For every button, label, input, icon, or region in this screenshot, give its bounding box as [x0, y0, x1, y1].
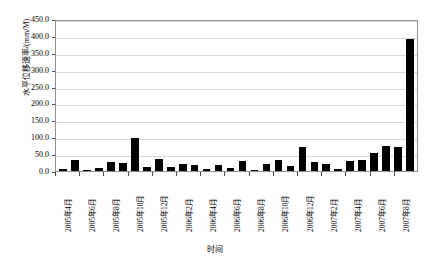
bar-slot	[296, 21, 308, 171]
bar-slot	[81, 21, 93, 171]
y-tick-label: 150.0	[31, 117, 49, 125]
bar[interactable]	[227, 168, 235, 171]
bar[interactable]	[334, 169, 342, 171]
bar[interactable]	[107, 162, 115, 171]
bar[interactable]	[95, 168, 103, 171]
x-tick-label: 2006年2月	[186, 199, 194, 232]
bar-slot	[332, 21, 344, 171]
bar-slot	[260, 21, 272, 171]
x-tick-label: 2006年6月	[234, 199, 242, 232]
bar-slot	[57, 21, 69, 171]
x-tick-label: 2006年12月	[307, 196, 315, 233]
bar[interactable]	[406, 39, 414, 171]
bar-slot	[201, 21, 213, 171]
bar-slot	[69, 21, 81, 171]
bar[interactable]	[299, 147, 307, 171]
bar[interactable]	[239, 161, 247, 171]
bar-slot	[93, 21, 105, 171]
bar-slot	[105, 21, 117, 171]
bar[interactable]	[215, 165, 223, 171]
y-tick-label: 400.0	[31, 33, 49, 41]
x-tick-label: 2005年6月	[89, 199, 97, 232]
bar-chart: 水平位移速率/(mm/M) 0.050.0100.0150.0200.0250.…	[0, 0, 430, 263]
bar[interactable]	[59, 169, 67, 171]
y-tick-label: 0.0	[39, 168, 49, 176]
x-tick-label: 2005年12月	[161, 196, 169, 233]
y-tick-label: 450.0	[31, 16, 49, 24]
bar-slot	[320, 21, 332, 171]
bar[interactable]	[394, 147, 402, 171]
bar[interactable]	[322, 164, 330, 171]
bar-slot	[308, 21, 320, 171]
x-axis-tick-labels: 2005年4月2005年6月2005年8月2005年10月2005年12月200…	[55, 176, 418, 236]
y-tick-label: 250.0	[31, 84, 49, 92]
bar[interactable]	[263, 164, 271, 171]
y-tick-label: 350.0	[31, 50, 49, 58]
bar[interactable]	[251, 170, 259, 171]
bar-slot	[177, 21, 189, 171]
bar-slot	[380, 21, 392, 171]
x-tick-label: 2005年4月	[65, 199, 73, 232]
bar[interactable]	[370, 153, 378, 171]
bar-slot	[249, 21, 261, 171]
x-axis-title: 时间	[0, 243, 430, 254]
bar[interactable]	[346, 161, 354, 171]
bar-slot	[117, 21, 129, 171]
x-tick-label: 2007年6月	[379, 199, 387, 232]
y-tick-label: 100.0	[31, 134, 49, 142]
bar-slot	[356, 21, 368, 171]
bar-slot	[284, 21, 296, 171]
bar[interactable]	[287, 166, 295, 171]
bar[interactable]	[179, 164, 187, 171]
y-tick-label: 300.0	[31, 67, 49, 75]
bar[interactable]	[203, 169, 211, 171]
bar[interactable]	[167, 167, 175, 171]
bar-slot	[213, 21, 225, 171]
bar-slot	[141, 21, 153, 171]
bar[interactable]	[191, 165, 199, 171]
x-tick-label: 2005年10月	[137, 196, 145, 233]
bar[interactable]	[311, 162, 319, 171]
x-tick-label: 2007年2月	[331, 199, 339, 232]
bar[interactable]	[131, 138, 139, 171]
x-tick-label: 2006年8月	[258, 199, 266, 232]
bar-slot	[272, 21, 284, 171]
bar-slot	[225, 21, 237, 171]
bar-slot	[189, 21, 201, 171]
y-tick-label: 50.0	[35, 151, 49, 159]
bar-slot	[368, 21, 380, 171]
bar-slot	[392, 21, 404, 171]
bar[interactable]	[143, 167, 151, 171]
bar[interactable]	[358, 160, 366, 171]
bar[interactable]	[382, 146, 390, 171]
bar-slot	[129, 21, 141, 171]
x-tick-label: 2007年4月	[355, 199, 363, 232]
y-axis-tick-labels: 0.050.0100.0150.0200.0250.0300.0350.0400…	[6, 20, 52, 172]
bar[interactable]	[119, 163, 127, 171]
y-tick-label: 200.0	[31, 100, 49, 108]
bar-slot	[404, 21, 416, 171]
bar-slot	[237, 21, 249, 171]
bar-slot	[165, 21, 177, 171]
bars-container	[56, 21, 417, 171]
plot-area	[55, 20, 418, 172]
bar[interactable]	[275, 160, 283, 171]
x-tick-label: 2006年4月	[210, 199, 218, 232]
bar[interactable]	[71, 160, 79, 171]
bar[interactable]	[155, 159, 163, 171]
x-tick-label: 2007年8月	[403, 199, 411, 232]
bar-slot	[344, 21, 356, 171]
bar-slot	[153, 21, 165, 171]
bar[interactable]	[83, 170, 91, 171]
x-tick-label: 2005年8月	[113, 199, 121, 232]
x-tick-label: 2006年10月	[282, 196, 290, 233]
